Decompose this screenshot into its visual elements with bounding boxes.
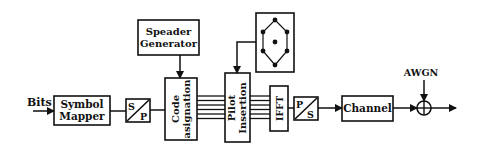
pilot-label-2: Insertion [237,81,248,133]
awgn-label: AWGN [403,67,439,78]
channel-label: Channel [343,102,392,114]
code-label-2: asignation [181,79,192,139]
sp-bottom: P [140,111,147,122]
parallel-to-serial-block: P S [294,97,318,120]
bits-label: Bits [27,96,52,109]
hexagonal-constellation-icon [256,13,294,72]
pilot-insertion-block: Pilot Insertion [225,73,250,142]
symbol-mapper-block: Symbol Mapper [54,96,110,125]
symbol-mapper-label-2: Mapper [59,110,105,122]
spreader-generator-block: Speader Generator [138,20,199,55]
ifft-label: IFFT [274,96,285,121]
spreader-label-1: Speader [146,26,192,37]
summation-circle-icon [417,101,431,115]
sp-top: S [128,101,135,112]
pilot-label-1: Pilot [226,94,237,121]
ifft-block: IFFT [270,86,288,131]
ps-bottom: S [307,109,314,120]
constellation-arrow [237,42,256,73]
channel-block: Channel [342,96,393,121]
ps-top: P [296,99,303,110]
code-label-1: Code [170,95,181,123]
spreader-label-2: Generator [140,38,198,49]
parallel-lines-2 [250,96,270,119]
code-assignation-block: Code asignation [165,78,197,140]
parallel-lines-1 [197,96,225,119]
serial-to-parallel-block: S P [126,99,150,122]
ofdm-cdma-block-diagram: Bits Symbol Mapper S P Speader Generator… [0,0,478,156]
symbol-mapper-label-1: Symbol [60,98,103,110]
